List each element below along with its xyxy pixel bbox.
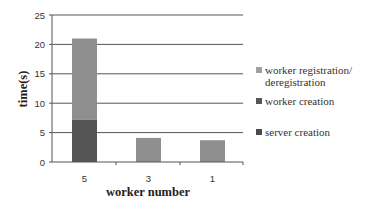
svg-text:10: 10 — [34, 98, 45, 109]
bar-5-worker-creation — [72, 120, 97, 162]
bar-5-worker-registration — [72, 39, 97, 120]
legend-label-continued: deregistration — [265, 76, 325, 88]
legend-label: server creation — [265, 126, 330, 138]
bar-1-worker-registration — [200, 140, 225, 162]
svg-text:1: 1 — [210, 173, 215, 184]
svg-text:15: 15 — [34, 68, 45, 79]
svg-text:5: 5 — [82, 173, 87, 184]
x-axis — [52, 162, 243, 165]
x-axis-title: worker number — [106, 185, 191, 199]
legend-swatch-icon — [256, 67, 262, 73]
svg-text:3: 3 — [146, 173, 151, 184]
legend-swatch-icon — [256, 129, 262, 135]
bar-group-1 — [200, 140, 225, 162]
legend-item-worker-creation: worker creation — [256, 95, 334, 107]
y-tick-labels: 25 20 15 10 5 0 — [34, 10, 45, 168]
bar-group-5 — [72, 39, 97, 163]
svg-text:5: 5 — [40, 127, 45, 138]
svg-text:20: 20 — [34, 39, 45, 50]
x-tick-labels: 5 3 1 — [82, 173, 215, 184]
y-axis-title: time(s) — [16, 71, 30, 108]
legend-label: worker registration/ — [265, 64, 352, 76]
svg-text:25: 25 — [34, 10, 45, 21]
svg-text:0: 0 — [40, 157, 45, 168]
legend-item-server-creation: server creation — [256, 126, 330, 138]
legend-label: worker creation — [265, 95, 334, 107]
bar-3-worker-registration — [136, 138, 161, 162]
legend-swatch-icon — [256, 98, 262, 104]
y-axis — [49, 15, 52, 162]
bar-group-3 — [136, 138, 161, 162]
legend-item-worker-registration: worker registration/ deregistration — [256, 64, 352, 88]
